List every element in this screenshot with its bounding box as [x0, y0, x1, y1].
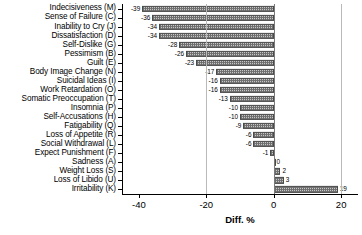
bar — [253, 141, 273, 147]
bar-value-label: -1 — [263, 150, 269, 156]
y-axis-tick — [118, 153, 122, 154]
category-label: Pessimism (B) — [0, 49, 119, 58]
bar-value-label: -10 — [229, 114, 238, 120]
y-axis-tick — [118, 63, 122, 64]
bar-row: 3 — [122, 176, 358, 185]
y-axis-tick — [118, 18, 122, 19]
y-axis-tick — [118, 90, 122, 91]
category-label: Sense of Failure (C) — [0, 13, 119, 22]
y-axis-tick — [118, 99, 122, 100]
y-axis-tick — [118, 171, 122, 172]
bar-row: -1 — [122, 149, 358, 158]
bar-row: 2 — [122, 167, 358, 176]
y-axis-tick — [118, 27, 122, 28]
x-axis-tick — [206, 194, 207, 198]
bar-row: -6 — [122, 140, 358, 149]
bar-value-label: -9 — [236, 123, 242, 129]
bar — [142, 5, 273, 11]
category-label: Irritability (K) — [0, 185, 119, 194]
bar-value-label: -13 — [219, 96, 228, 102]
zero-reference-line — [274, 4, 275, 194]
bar — [220, 87, 274, 93]
bar — [253, 132, 273, 138]
bar-value-label: -34 — [148, 32, 157, 38]
x-axis-tick-label: 20 — [336, 200, 347, 210]
category-label: Self-Dislike (G) — [0, 40, 119, 49]
bar-row: -16 — [122, 76, 358, 85]
bar-rows: -39-36-34-34-28-26-23-17-16-16-13-10-10-… — [122, 4, 358, 194]
bar-row: -28 — [122, 40, 358, 49]
bar-value-label: -6 — [246, 141, 252, 147]
bar — [240, 105, 274, 111]
bar-value-label: -26 — [175, 51, 184, 57]
bar — [243, 123, 273, 129]
bar-row: -16 — [122, 85, 358, 94]
bar-value-label: -34 — [148, 23, 157, 29]
bar-chart: Indecisiveness (M)Sense of Failure (C)In… — [0, 0, 362, 235]
bar-row: -34 — [122, 22, 358, 31]
bar-row: -10 — [122, 104, 358, 113]
bar-value-label: -10 — [229, 105, 238, 111]
bar-row: -36 — [122, 13, 358, 22]
x-axis-line — [122, 194, 358, 195]
category-axis-labels: Indecisiveness (M)Sense of Failure (C)In… — [0, 4, 119, 194]
bar-row: -23 — [122, 58, 358, 67]
y-axis-tick — [118, 180, 122, 181]
gridline — [206, 4, 207, 194]
bar-row: -13 — [122, 94, 358, 103]
plot-area: -39-36-34-34-28-26-23-17-16-16-13-10-10-… — [122, 4, 358, 194]
x-axis-tick — [341, 194, 342, 198]
x-axis-tick — [274, 194, 275, 198]
bar-value-label: -28 — [168, 42, 177, 48]
y-axis-tick — [118, 162, 122, 163]
x-axis-tick-label: 0 — [271, 200, 276, 210]
bar-row: 0 — [122, 158, 358, 167]
y-axis-tick — [118, 72, 122, 73]
bar-row: -10 — [122, 113, 358, 122]
y-axis-tick — [118, 135, 122, 136]
y-axis-tick — [118, 9, 122, 10]
y-axis-tick — [118, 81, 122, 82]
bar-row: -17 — [122, 67, 358, 76]
bar-row: 19 — [122, 185, 358, 194]
bar-value-label: -23 — [185, 60, 194, 66]
bar-value-label: -36 — [141, 14, 150, 20]
bar-row: -6 — [122, 131, 358, 140]
bar-value-label: -39 — [131, 5, 140, 11]
category-label: Guilt (E) — [0, 58, 119, 67]
y-axis-tick — [118, 144, 122, 145]
bar — [159, 33, 274, 39]
bar-value-label: -16 — [209, 87, 218, 93]
category-label: Dissatisfaction (D) — [0, 31, 119, 40]
y-axis-tick — [118, 117, 122, 118]
y-axis-tick — [118, 189, 122, 190]
x-axis-title: Diff. % — [122, 214, 358, 225]
bar — [152, 14, 273, 20]
bar — [159, 24, 274, 30]
bar — [274, 177, 284, 183]
bar-value-label: 2 — [282, 168, 286, 174]
bar-value-label: 3 — [286, 177, 290, 183]
bar — [186, 51, 274, 57]
y-axis-tick — [118, 36, 122, 37]
bar-row: -26 — [122, 49, 358, 58]
y-axis-tick — [118, 126, 122, 127]
category-label: Inability to Cry (J) — [0, 22, 119, 31]
bar — [274, 186, 338, 192]
y-axis-tick — [118, 45, 122, 46]
y-axis-tick — [118, 54, 122, 55]
x-axis-tick-label: -20 — [199, 200, 213, 210]
x-axis-tick-label: -40 — [132, 200, 146, 210]
bar-value-label: -6 — [246, 132, 252, 138]
bar-value-label: -16 — [209, 78, 218, 84]
bar — [179, 42, 273, 48]
bar-row: -9 — [122, 122, 358, 131]
x-axis-tick-labels: -40-20020 — [122, 200, 358, 212]
gridline — [341, 4, 342, 194]
bar — [240, 114, 274, 120]
bar-row: -34 — [122, 31, 358, 40]
bar — [274, 168, 281, 174]
bar — [216, 69, 273, 75]
y-axis-tick — [118, 108, 122, 109]
bar — [220, 78, 274, 84]
